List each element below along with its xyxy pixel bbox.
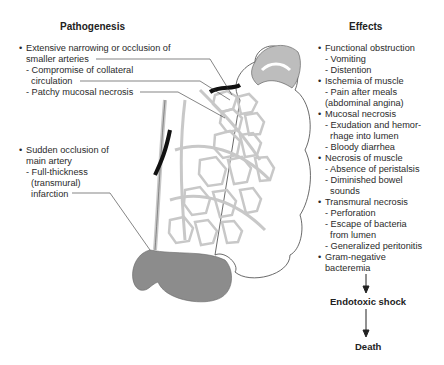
arrow-down-icon xyxy=(363,309,369,337)
arrow-down-icon xyxy=(363,274,369,293)
infarcted-bowel xyxy=(133,250,232,302)
intestine-illustration xyxy=(0,0,444,365)
